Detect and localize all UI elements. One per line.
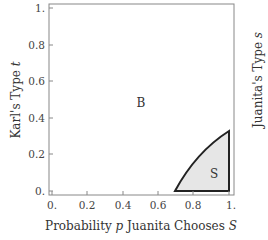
- x-tick-label: 0.8: [185, 199, 202, 211]
- y-tick-label: 1.: [35, 2, 45, 14]
- x-tick-label: 0.2: [79, 199, 96, 211]
- region-s-label: S: [210, 167, 218, 181]
- right-axis-label: Juanita's Type s: [251, 32, 265, 130]
- y-tick-label: 0.8: [28, 39, 45, 51]
- y-tick-label: 0.: [35, 185, 45, 197]
- x-tick-label: 1.: [226, 199, 236, 211]
- x-tick-label: 0.4: [115, 199, 132, 211]
- y-tick-label: 0.2: [28, 148, 45, 160]
- x-tick-label: 0.6: [150, 199, 167, 211]
- x-tick-label: 0.: [47, 199, 57, 211]
- y-axis-label: Karl's Type t: [9, 61, 23, 138]
- region-b-label: B: [137, 96, 146, 110]
- chart: 0. 0.2 0.4 0.6 0.8 1. 0. 0.2 0.4 0.6 0.8…: [0, 0, 268, 240]
- y-tick-label: 0.4: [28, 112, 45, 124]
- x-axis-label: Probability p Juanita Chooses S: [45, 219, 237, 233]
- y-tick-label: 0.6: [28, 75, 45, 87]
